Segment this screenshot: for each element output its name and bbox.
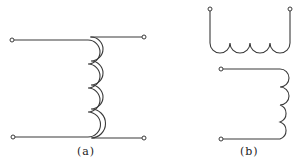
a-coil-outer bbox=[88, 40, 101, 137]
a-terminal-top-left bbox=[10, 38, 14, 42]
a-terminal-bottom-right bbox=[142, 136, 146, 140]
figure-a bbox=[10, 35, 146, 140]
a-coil-inner bbox=[91, 37, 106, 138]
a-terminal-top-right bbox=[142, 35, 146, 39]
figure-a-label: (a) bbox=[77, 145, 95, 158]
figure-b-label: (b) bbox=[240, 145, 259, 158]
b-terminal-upper-left bbox=[208, 7, 212, 11]
figure-b bbox=[208, 7, 292, 141]
diagram-canvas bbox=[0, 0, 298, 162]
a-terminal-bottom-left bbox=[11, 135, 15, 139]
b-terminal-upper-right bbox=[288, 7, 292, 11]
b-upper-winding bbox=[210, 11, 290, 53]
b-lower-winding bbox=[223, 69, 289, 139]
b-terminal-lower-top bbox=[219, 67, 223, 71]
b-terminal-lower-bottom bbox=[219, 137, 223, 141]
